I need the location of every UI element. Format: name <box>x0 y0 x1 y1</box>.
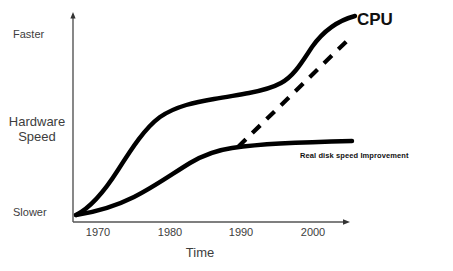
y-axis-title-line-2: Speed <box>6 129 68 144</box>
series-label-disk: Real disk speed Improvement <box>300 151 409 160</box>
series-label-cpu: CPU <box>357 10 393 30</box>
x-axis-arrow-icon <box>343 219 350 225</box>
y-axis <box>70 12 75 222</box>
x-axis-title: Time <box>186 245 214 260</box>
y-axis-arrow-icon <box>70 12 75 19</box>
x-axis <box>73 219 350 225</box>
x-tick-label-1980: 1980 <box>158 226 182 238</box>
x-tick-label-1970: 1970 <box>86 226 110 238</box>
hardware-speed-chart: Faster Slower Hardware Speed 1970 1980 1… <box>0 0 453 271</box>
y-axis-title-line-1: Hardware <box>6 114 68 129</box>
x-tick-label-1990: 1990 <box>229 226 253 238</box>
y-axis-high-label: Faster <box>13 28 44 40</box>
x-tick-label-2000: 2000 <box>301 226 325 238</box>
y-axis-title: Hardware Speed <box>6 114 68 144</box>
series-line-cpu <box>76 16 355 215</box>
y-axis-low-label: Slower <box>13 206 47 218</box>
